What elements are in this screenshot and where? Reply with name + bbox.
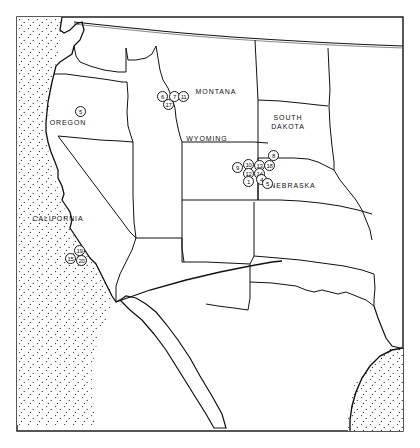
state-label-wyoming: WYOMING <box>186 134 227 143</box>
site-marker-15[interactable]: 15 <box>65 253 76 264</box>
site-marker-5b[interactable]: 5 <box>262 178 273 189</box>
site-marker-20[interactable]: 20 <box>76 255 87 266</box>
state-label-oregon: OREGON <box>50 118 87 127</box>
site-marker-5[interactable]: 5 <box>75 106 86 117</box>
state-label-nebraska: NEBRASKA <box>270 181 315 190</box>
site-marker-1[interactable]: 1 <box>243 176 254 187</box>
state-label-montana: MONTANA <box>196 87 237 96</box>
state-label-california: CALIFORNIA <box>32 214 83 223</box>
map-graphic <box>0 0 420 448</box>
site-marker-18[interactable]: 18 <box>264 160 275 171</box>
site-marker-11[interactable]: 11 <box>178 91 189 102</box>
site-marker-9[interactable]: 9 <box>232 162 243 173</box>
map-figure: OREGONCALIFORNIAMONTANAWYOMINGSOUTH DAKO… <box>0 0 420 448</box>
site-marker-17[interactable]: 17 <box>163 99 174 110</box>
state-label-south-dakota: SOUTH DAKOTA <box>271 113 305 132</box>
